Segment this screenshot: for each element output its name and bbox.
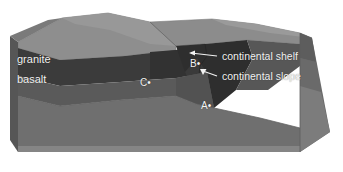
right-side-lower-band (300, 86, 330, 152)
layer-label-basalt: basalt (17, 73, 46, 85)
point-label-b: B• (190, 59, 200, 69)
figure-canvas: granite basalt continental shelf contine… (0, 0, 343, 172)
point-label-a: A• (201, 101, 211, 111)
layer-label-granite: granite (17, 53, 51, 65)
annotation-continental-shelf: continental shelf (222, 51, 298, 62)
block-diagram-graphic (0, 0, 343, 172)
right-side-face-group (300, 33, 330, 152)
point-label-c: C• (140, 78, 151, 88)
front-face-base-band (18, 146, 300, 152)
annotation-continental-slope: continental slope (222, 71, 301, 82)
